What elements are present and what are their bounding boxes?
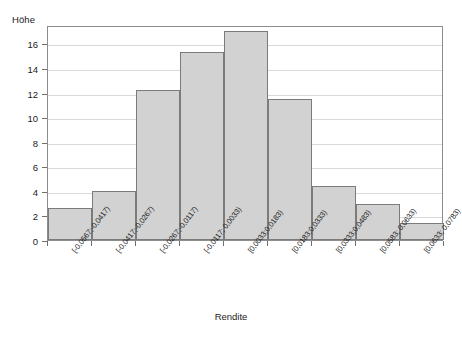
- y-axis-tick-label: 14: [0, 64, 38, 75]
- x-axis-title: Rendite: [0, 311, 462, 322]
- y-axis-tick: [42, 192, 47, 193]
- x-axis-tick: [179, 241, 180, 246]
- x-axis-tick: [355, 241, 356, 246]
- y-axis-tick-label: 10: [0, 113, 38, 124]
- x-axis-tick: [267, 241, 268, 246]
- x-axis-tick: [311, 241, 312, 246]
- y-axis-tick: [42, 44, 47, 45]
- y-axis-tick-label: 2: [0, 211, 38, 222]
- x-axis-tick: [91, 241, 92, 246]
- y-axis-tick: [42, 94, 47, 95]
- y-axis-tick: [42, 143, 47, 144]
- histogram-bar: [224, 31, 268, 240]
- y-axis-tick-label: 8: [0, 137, 38, 148]
- y-axis-title: Höhe: [12, 14, 35, 25]
- histogram-chart: Höhe 0246810121416 [-0,0567;-0,0417)[-0,…: [0, 0, 462, 342]
- x-axis-tick: [135, 241, 136, 246]
- x-axis-tick: [443, 241, 444, 246]
- x-axis-tick: [223, 241, 224, 246]
- y-axis-tick-label: 0: [0, 236, 38, 247]
- y-axis-tick-label: 12: [0, 88, 38, 99]
- y-axis-tick: [42, 216, 47, 217]
- x-axis-tick: [47, 241, 48, 246]
- y-axis-tick: [42, 167, 47, 168]
- x-axis-tick: [399, 241, 400, 246]
- y-axis-tick-label: 16: [0, 39, 38, 50]
- y-axis-tick-label: 6: [0, 162, 38, 173]
- y-axis-tick: [42, 69, 47, 70]
- y-axis-tick: [42, 118, 47, 119]
- y-axis-tick-label: 4: [0, 186, 38, 197]
